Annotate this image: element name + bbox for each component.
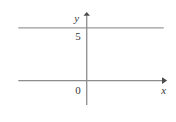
plot-canvas: [0, 0, 176, 122]
origin-label: 0: [75, 85, 81, 96]
x-axis-arrow-icon: [162, 77, 167, 84]
y-axis-arrow-icon: [84, 12, 90, 16]
y-axis-label: y: [74, 13, 79, 24]
coordinate-plane-figure: y 5 0 x: [0, 0, 176, 122]
x-axis-label: x: [161, 85, 166, 96]
y-tick-label-5: 5: [75, 31, 81, 42]
